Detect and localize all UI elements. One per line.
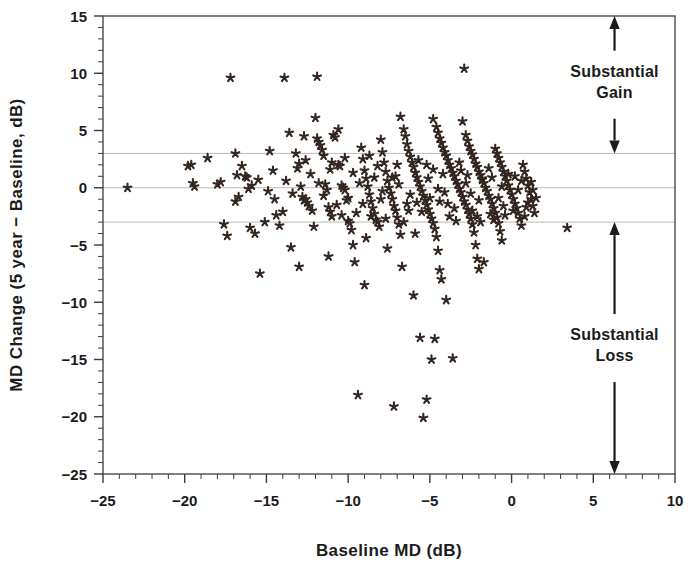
x-tick-label: −10 <box>335 492 360 509</box>
x-tick-label: −25 <box>90 492 115 509</box>
scatter-plot-figure: −25−20−15−10−50510 151050−5−10−15−20−25 … <box>0 0 691 566</box>
y-tick-label: 5 <box>79 122 87 139</box>
y-tick-label: 10 <box>70 65 87 82</box>
annotation-line-2: Gain <box>596 84 632 101</box>
x-tick-label: −15 <box>254 492 279 509</box>
y-tick-label: −20 <box>62 408 87 425</box>
annotation-line-2: Loss <box>595 347 633 364</box>
x-tick-label: 5 <box>589 492 597 509</box>
x-tick-label: −20 <box>172 492 197 509</box>
annotation-line-1: Substantial <box>570 63 658 80</box>
y-tick-label: −5 <box>70 237 87 254</box>
y-tick-label: −15 <box>62 351 87 368</box>
annotation-line-1: Substantial <box>570 326 658 343</box>
y-tick-label: −25 <box>62 466 87 483</box>
y-tick-label: 0 <box>79 179 87 196</box>
y-axis-title: MD Change (5 year − Baseline, dB) <box>7 98 26 391</box>
x-tick-label: 10 <box>667 492 684 509</box>
y-tick-label: 15 <box>70 8 87 25</box>
x-tick-label: 0 <box>507 492 515 509</box>
chart-canvas: −25−20−15−10−50510 151050−5−10−15−20−25 … <box>0 0 691 566</box>
x-tick-label: −5 <box>421 492 438 509</box>
y-tick-label: −10 <box>62 294 87 311</box>
x-axis-title: Baseline MD (dB) <box>316 541 462 560</box>
